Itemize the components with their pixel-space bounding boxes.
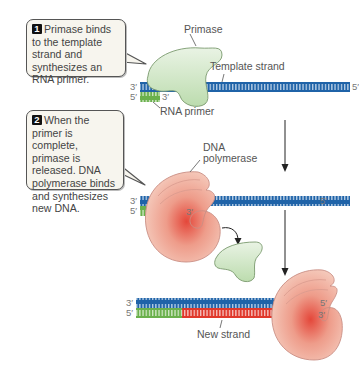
step-1-text: Primase binds to the template strand and… bbox=[32, 23, 111, 85]
step-1-number: 1 bbox=[32, 24, 42, 34]
step3-new-strand-3prime: 3′ bbox=[318, 310, 325, 320]
step3-template-5prime: 5′ bbox=[320, 298, 327, 308]
primase-label: Primase bbox=[184, 24, 223, 35]
step-1-callout: 1Primase binds to the template strand an… bbox=[26, 19, 126, 77]
step-2-text: When the primer is complete, primase is … bbox=[32, 114, 115, 214]
rna-primer-label: RNA primer bbox=[160, 106, 214, 117]
step1-primer-3prime: 3′ bbox=[162, 92, 169, 102]
step2-template-5prime: 5′ bbox=[320, 196, 327, 206]
polymerase-shape-1 bbox=[145, 172, 220, 262]
primase-shape-2 bbox=[215, 242, 262, 282]
step2-primer-5prime: 5′ bbox=[130, 206, 137, 216]
step1-primer-5prime: 5′ bbox=[130, 92, 137, 102]
step-2-number: 2 bbox=[32, 115, 42, 125]
step-2-callout: 2When the primer is complete, primase is… bbox=[26, 110, 124, 190]
polymerase-shape-2 bbox=[272, 270, 342, 360]
template-strand-label: Template strand bbox=[210, 61, 285, 72]
step1-template-5prime: 5′ bbox=[352, 82, 359, 92]
step3-primer-5prime: 5′ bbox=[126, 308, 133, 318]
new-strand-label: New strand bbox=[197, 329, 250, 340]
dna-polymerase-label-2: polymerase bbox=[203, 153, 257, 164]
step2-primer-3prime: 3′ bbox=[186, 207, 193, 217]
